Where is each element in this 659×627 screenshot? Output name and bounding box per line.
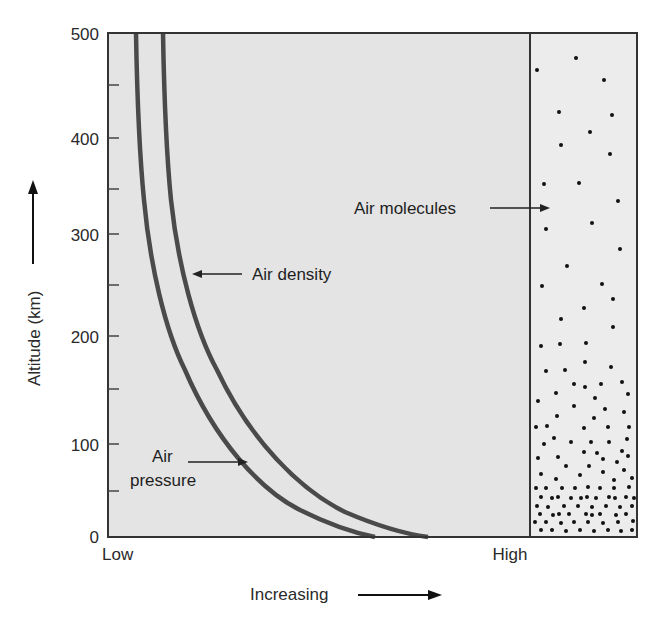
x-label-high: High <box>493 545 528 564</box>
air-pressure-label-line1: Air <box>152 447 173 466</box>
x-label-low: Low <box>102 545 134 564</box>
y-axis-label: Altitude (km) <box>25 291 44 386</box>
y-tick-200: 200 <box>71 328 99 347</box>
molecules-panel <box>530 33 637 537</box>
y-tick-100: 100 <box>71 436 99 455</box>
air-molecules-label: Air molecules <box>354 199 456 218</box>
x-axis-label: Increasing <box>250 585 328 604</box>
y-axis-labels: 500 400 300 200 100 0 <box>71 25 99 547</box>
air-density-label: Air density <box>252 265 332 284</box>
y-tick-0: 0 <box>90 528 99 547</box>
x-axis-arrow-icon <box>358 590 442 600</box>
air-pressure-label-line2: pressure <box>130 471 196 490</box>
y-tick-400: 400 <box>71 130 99 149</box>
y-tick-300: 300 <box>71 226 99 245</box>
y-tick-500: 500 <box>71 25 99 44</box>
altitude-diagram: 500 400 300 200 100 0 Altitude (km) Low … <box>0 0 659 627</box>
y-axis-arrow-icon <box>28 180 38 264</box>
